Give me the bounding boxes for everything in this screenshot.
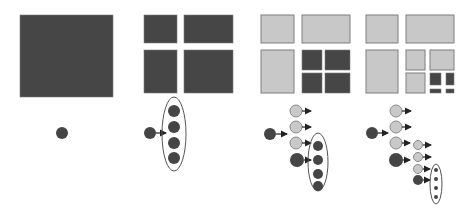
root-node	[144, 127, 156, 139]
leaf-node	[434, 177, 438, 181]
grandchild-node	[313, 169, 323, 179]
quadrant-ne	[302, 15, 350, 43]
child-node	[168, 121, 180, 133]
child-node	[389, 153, 403, 167]
sub-sub-quadrant	[430, 89, 441, 93]
child-node	[168, 105, 180, 117]
grandchild-node	[313, 141, 323, 151]
quadrant-sw	[144, 50, 177, 93]
root-block	[20, 15, 113, 97]
quadrant-ne	[406, 15, 454, 43]
sub-quadrant	[406, 73, 425, 93]
child-node	[290, 105, 302, 117]
grandchild-node	[414, 165, 423, 174]
sub-sub-quadrant	[430, 73, 441, 85]
leaf-node	[434, 195, 438, 199]
leaf-node	[434, 168, 438, 172]
child-node	[290, 121, 302, 133]
stage-2	[144, 15, 233, 171]
child-node	[290, 153, 304, 167]
sub-sub-quadrant	[446, 73, 454, 85]
quadrant-ne	[184, 15, 233, 43]
quadrant-nw	[144, 15, 177, 43]
quadrant-sw	[366, 50, 398, 93]
quadtree-diagram	[0, 0, 476, 211]
sub-quadrant	[325, 73, 350, 93]
sub-quadrant	[302, 50, 322, 70]
child-node	[390, 105, 402, 117]
quadrant-nw	[366, 15, 398, 43]
sub-quadrant	[302, 73, 322, 93]
sub-quadrant	[406, 50, 425, 70]
leaf-node	[434, 186, 438, 190]
quadrant-se	[184, 50, 233, 93]
grandchild-node	[313, 181, 323, 191]
child-node	[168, 137, 180, 149]
grandchild-node	[413, 175, 423, 185]
child-node	[290, 137, 302, 149]
root-node	[366, 127, 378, 139]
root-node	[264, 128, 276, 140]
sub-sub-quadrant	[446, 89, 454, 93]
root-node	[56, 127, 68, 139]
quadrant-sw	[261, 50, 294, 93]
grandchild-node	[414, 141, 423, 150]
stage-1	[20, 15, 113, 139]
grandchild-node	[414, 153, 423, 162]
sub-quadrant	[430, 50, 454, 70]
child-node	[168, 152, 180, 164]
child-node	[390, 137, 402, 149]
child-node	[390, 121, 402, 133]
quadrant-nw	[261, 15, 294, 43]
grandchild-node	[313, 155, 323, 165]
stage-3	[261, 15, 350, 191]
stage-4	[366, 15, 454, 204]
sub-quadrant	[325, 50, 350, 70]
